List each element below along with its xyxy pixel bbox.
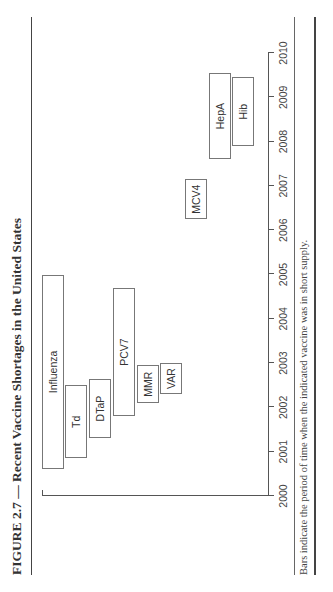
note-top-rule — [294, 17, 295, 575]
bar-dtap: DTaP — [89, 379, 111, 439]
bar-mcv4: MCV4 — [185, 179, 207, 219]
x-tick-label: 2002 — [277, 387, 289, 427]
x-tick — [264, 495, 274, 496]
bar-pcv7: PCV7 — [113, 288, 135, 416]
x-tick — [268, 406, 274, 407]
y-axis-line — [42, 495, 269, 496]
bottom-rule — [314, 17, 316, 575]
x-tick — [268, 185, 274, 186]
x-tick-label: 2006 — [277, 210, 289, 250]
x-tick — [268, 318, 274, 319]
bar-hib: Hib — [232, 77, 254, 146]
x-tick — [268, 362, 274, 363]
bar-label: MCV4 — [190, 185, 202, 214]
x-tick — [268, 451, 274, 452]
x-tick — [268, 96, 274, 97]
x-tick — [268, 229, 274, 230]
bar-mmr: MMR — [137, 365, 159, 403]
bar-label: Hib — [237, 104, 249, 120]
x-tick-label: 2008 — [277, 122, 289, 162]
figure-note: Bars indicate the period of time when th… — [298, 240, 309, 575]
y-axis-top-tick — [42, 490, 43, 496]
x-tick — [268, 141, 274, 142]
x-tick — [268, 52, 274, 53]
rotated-figure: FIGURE 2.7 — Recent Vaccine Shortages in… — [0, 0, 333, 592]
x-tick-label: 2005 — [277, 255, 289, 295]
bar-label: DTaP — [94, 396, 106, 422]
chart-plot-area: 2000200120022003200420052006200720082009… — [0, 0, 333, 592]
bar-label: MMR — [142, 372, 154, 397]
bar-label: Td — [70, 416, 82, 428]
bar-var: VAR — [160, 363, 182, 394]
bar-td: Td — [65, 385, 87, 458]
bar-label: VAR — [165, 368, 177, 389]
bar-label: HepA — [214, 103, 226, 129]
bar-label: PCV7 — [118, 338, 130, 365]
x-tick-label: 2009 — [277, 77, 289, 117]
x-tick-label: 2004 — [277, 299, 289, 339]
x-tick-label: 2007 — [277, 166, 289, 206]
x-tick-label: 2003 — [277, 343, 289, 383]
x-tick-label: 2001 — [277, 432, 289, 472]
bar-label: Influenza — [47, 351, 59, 394]
bar-hepa: HepA — [209, 73, 231, 159]
bar-influenza: Influenza — [42, 275, 64, 470]
x-tick-label: 2010 — [277, 33, 289, 73]
x-tick — [268, 274, 274, 275]
x-tick-label: 2000 — [277, 476, 289, 516]
